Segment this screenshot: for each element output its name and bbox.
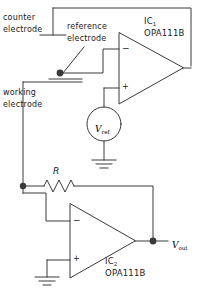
label-vout: Vout bbox=[172, 233, 188, 252]
label-resistor-r: R bbox=[53, 166, 59, 177]
label-ic1-plus-input: + bbox=[122, 82, 129, 92]
label-vref: Vref bbox=[95, 117, 109, 136]
label-ic1-name: IC bbox=[144, 16, 153, 26]
junction-dot-reference-node bbox=[57, 70, 64, 77]
label-vref-subscript: ref bbox=[102, 129, 110, 135]
label-working-electrode-line1: working bbox=[3, 88, 36, 98]
junction-dot-output-node bbox=[150, 238, 157, 245]
label-reference-electrode-line1: reference bbox=[67, 22, 107, 32]
leader-line-reference-electrode bbox=[63, 47, 84, 73]
label-counter-electrode-line2: electrode bbox=[3, 25, 42, 35]
circuit-schematic-svg bbox=[0, 0, 205, 302]
label-ic1-index: 1 bbox=[153, 21, 157, 27]
wire-working-to-ic2-minus bbox=[23, 193, 70, 221]
label-ic2-index: 2 bbox=[114, 261, 118, 267]
resistor-r-body bbox=[44, 180, 74, 192]
label-ic2-designator: IC2 bbox=[105, 256, 118, 268]
label-vref-symbol: V bbox=[95, 124, 102, 134]
label-working-electrode-line2: electrode bbox=[3, 100, 42, 110]
label-ic2-part: OPA111B bbox=[105, 268, 146, 279]
label-ic2-plus-input: + bbox=[73, 254, 80, 264]
junction-dot-resistor-node bbox=[20, 183, 26, 189]
label-vout-symbol: V bbox=[172, 240, 179, 250]
label-ic1-minus-input: − bbox=[122, 43, 130, 53]
circuit-diagram: counter electrode reference electrode wo… bbox=[0, 0, 205, 302]
label-counter-electrode-line1: counter bbox=[3, 13, 35, 23]
label-reference-electrode-line2: electrode bbox=[67, 34, 106, 44]
label-ic2-name: IC bbox=[105, 256, 114, 266]
label-vout-subscript: out bbox=[179, 245, 188, 251]
label-ic1-designator: IC1 bbox=[144, 16, 157, 28]
label-ic2-minus-input: − bbox=[73, 215, 81, 225]
label-ic1-part: OPA111B bbox=[144, 28, 185, 39]
wire-reference-to-ic1-minus bbox=[60, 49, 119, 73]
